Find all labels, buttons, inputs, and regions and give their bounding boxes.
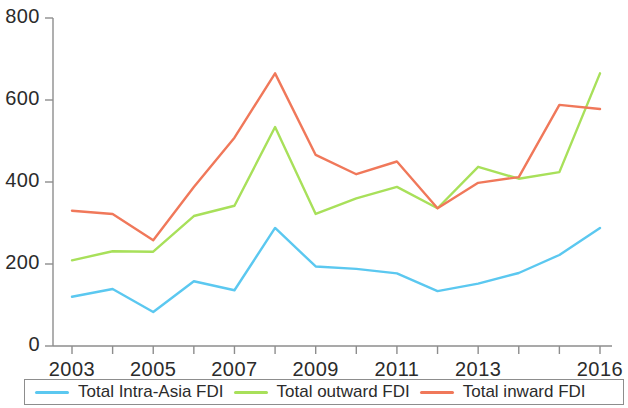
y-tick-label: 600 [5,87,40,110]
x-tick-label: 2016 [565,358,628,381]
x-tick-label: 2009 [281,358,351,381]
x-tick-label: 2011 [362,358,432,381]
legend-swatch-icon [35,391,69,394]
x-tick-label: 2013 [443,358,513,381]
chart-series-lines [72,73,600,312]
series-line-2 [72,73,600,240]
x-tick-label: 2007 [199,358,269,381]
y-tick-label: 200 [5,251,40,274]
legend-swatch-icon [420,391,454,394]
legend-item-1[interactable]: Total outward FDI [234,382,410,402]
x-tick-label: 2003 [37,358,107,381]
y-tick-label: 400 [5,169,40,192]
y-tick-label: 0 [28,333,40,356]
legend-label: Total outward FDI [277,382,410,402]
series-line-1 [72,73,600,260]
chart-plot-area [0,0,628,408]
legend-swatch-icon [234,391,268,394]
chart-legend: Total Intra-Asia FDITotal outward FDITot… [24,379,624,405]
legend-item-0[interactable]: Total Intra-Asia FDI [35,382,224,402]
legend-label: Total inward FDI [463,382,586,402]
x-tick-label: 2005 [118,358,188,381]
series-line-0 [72,228,600,312]
y-tick-label: 800 [5,5,40,28]
legend-item-2[interactable]: Total inward FDI [420,382,586,402]
fdi-line-chart: 0200400600800 20032005200720092011201320… [0,0,628,408]
legend-label: Total Intra-Asia FDI [78,382,224,402]
chart-axes [45,18,612,354]
